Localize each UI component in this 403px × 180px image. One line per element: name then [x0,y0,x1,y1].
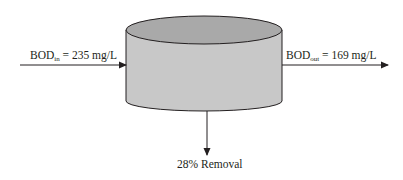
removal-label-text: 28% Removal [177,158,242,170]
removal-label: 28% Removal [177,159,242,171]
outlet-label: BODout = 169 mg/L [286,50,377,63]
tank [126,16,282,111]
inlet-label: BODin = 235 mg/L [30,50,117,63]
outlet-label-value: = 169 mg/L [319,49,376,61]
outlet-label-main: BOD [286,49,310,61]
inlet-label-value: = 235 mg/L [60,49,117,61]
reactor-diagram [0,0,403,180]
outlet-label-sub: out [310,55,319,63]
inlet-label-main: BOD [30,49,54,61]
